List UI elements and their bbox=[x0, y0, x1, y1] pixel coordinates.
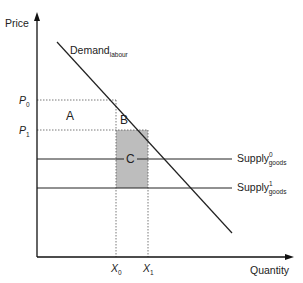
region-a-label: A bbox=[66, 109, 74, 123]
region-c-label: C bbox=[126, 152, 135, 166]
x-axis-label: Quantity bbox=[250, 264, 290, 276]
x1-label: X1 bbox=[142, 262, 154, 276]
supply0-label: Supply0goods bbox=[237, 151, 287, 167]
y-axis-label: Price bbox=[5, 17, 29, 29]
demand-label: Demandlabour bbox=[70, 44, 129, 58]
supply1-label: Supply1goods bbox=[237, 180, 287, 196]
labour-demand-diagram: Price Quantity Demandlabour Supply0goods… bbox=[0, 0, 303, 283]
p0-label: P0 bbox=[19, 94, 30, 108]
x0-label: X0 bbox=[110, 262, 122, 276]
p1-label: P1 bbox=[19, 124, 30, 138]
y-axis-arrow-icon bbox=[34, 12, 40, 21]
demand-line bbox=[57, 42, 232, 233]
region-b-label: B bbox=[120, 113, 128, 127]
x-axis-arrow-icon bbox=[285, 254, 294, 260]
